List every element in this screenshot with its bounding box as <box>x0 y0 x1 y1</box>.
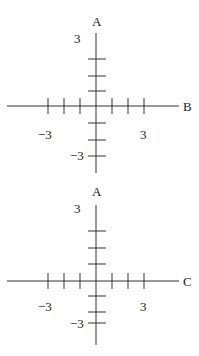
tick-label-bottom: −3 <box>70 148 84 163</box>
tick-label-top: 3 <box>74 201 81 216</box>
tick-label-right: 3 <box>140 127 147 142</box>
axes-diagram-a-b <box>7 33 179 173</box>
axis-label-a: A <box>92 14 102 29</box>
tick-label-top: 3 <box>74 31 81 46</box>
axis-label-b: B <box>183 99 192 114</box>
tick-label-left: −3 <box>38 127 52 142</box>
tick-label-left: −3 <box>38 299 52 314</box>
tick-label-bottom: −3 <box>70 316 84 331</box>
axes-diagram-a-c <box>7 205 179 345</box>
tick-label-right: 3 <box>140 299 147 314</box>
axis-label-c: C <box>183 274 192 289</box>
coordinate-diagrams: A B 3 −3 −3 3 A C 3 −3 −3 3 <box>0 0 199 356</box>
axis-label-a: A <box>92 184 102 199</box>
